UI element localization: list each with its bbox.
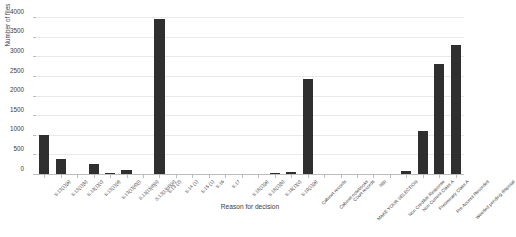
bar-column [56,18,66,175]
x-axis-tick-mark [406,175,407,178]
x-axis-tick-mark [77,175,78,178]
x-axis-tick-mark [159,175,160,178]
bar-column [286,18,296,175]
bar-column [253,18,263,175]
bar-column [220,18,230,175]
bar-column [187,18,197,175]
x-axis-tick-mark [439,175,440,178]
x-axis-tick-mark [209,175,210,178]
bar-column [154,18,164,175]
bar-series [36,18,464,175]
bar [418,131,428,175]
x-axis-tick-label: NBI [379,179,388,188]
bar-column [121,18,131,175]
x-axis-tick-label: S.13(1)(b) [70,179,88,197]
x-axis-tick-mark [225,175,226,178]
x-axis-tick-mark [192,175,193,178]
x-axis-tick-mark [143,175,144,178]
y-axis-tick-label: 500 [0,146,24,152]
y-axis-tick-label: 3500 [0,28,24,34]
bar-column [138,18,148,175]
bar-column [105,18,115,175]
x-axis-tick-label: S.14 (1) [184,179,199,194]
x-axis-tick-label: S.13(1)(d) [103,179,121,197]
bar-column [237,18,247,175]
x-axis-tick-label: S.16 [215,179,225,189]
bar [154,19,164,175]
x-axis-title: Reason for decision [36,203,464,210]
x-axis-tick-mark [308,175,309,178]
x-axis-tick-label: S.17 [231,179,241,189]
y-axis-tick-label: 0 [0,166,24,172]
x-axis-tick-mark [291,175,292,178]
bar-column [319,18,329,175]
bar [39,135,49,175]
bar [451,45,461,175]
bar [434,64,444,175]
bar-column [368,18,378,175]
x-axis-tick-label: S.15 (1) [200,179,215,194]
x-axis-line [36,174,464,175]
y-axis-tick-label: 4000 [0,9,24,15]
x-axis-tick-mark [44,175,45,178]
bar-column [89,18,99,175]
x-axis-tick-mark [456,175,457,178]
bar-column [303,18,313,175]
x-axis-tick-mark [390,175,391,178]
x-axis-tick-mark [94,175,95,178]
y-axis-tick-label: 2500 [0,68,24,74]
bar-column [418,18,428,175]
y-axis-tick-label: 1500 [0,107,24,113]
x-axis-tick-label: S.13(1)(c) [86,179,104,197]
y-axis-tick-label: 1000 [0,126,24,132]
x-axis-tick-labels: S.13(1)(a)S.13(1)(b)S.13(1)(c)S.13(1)(d)… [36,179,464,223]
y-axis-tick-label: 2000 [0,87,24,93]
x-axis-tick-mark [242,175,243,178]
bar-column [171,18,181,175]
y-axis-tick-label: 3000 [0,48,24,54]
bar-column [39,18,49,175]
x-axis-tick-mark [110,175,111,178]
x-axis-tick-label: S.13(1)(a) [53,179,71,197]
plot-area: 05001000150020002500300035004000 [36,18,464,175]
x-axis-tick-mark [176,175,177,178]
x-axis-tick-mark [61,175,62,178]
bar-column [335,18,345,175]
x-axis-tick-label: S.18(1)(b) [267,179,285,197]
bar-column [451,18,461,175]
x-axis-tick-mark [423,175,424,178]
bar [56,159,66,175]
x-axis-tick-mark [373,175,374,178]
bar-column [434,18,444,175]
bar-column [270,18,280,175]
x-axis-tick-label: S.18(1)(c) [284,179,302,197]
x-axis-tick-mark [127,175,128,178]
bar [303,79,313,175]
bar-column [385,18,395,175]
x-axis-tick-mark [258,175,259,178]
x-axis-tick-mark [275,175,276,178]
x-axis-tick-label: S.19(1)(a) [300,179,318,197]
x-axis-tick-mark [357,175,358,178]
x-axis-tick-label: S.18(1)(a) [251,179,269,197]
bar-column [72,18,82,175]
bar-column [352,18,362,175]
bar-column [401,18,411,175]
x-axis-tick-mark [341,175,342,178]
x-axis-tick-mark [324,175,325,178]
bar-column [204,18,214,175]
